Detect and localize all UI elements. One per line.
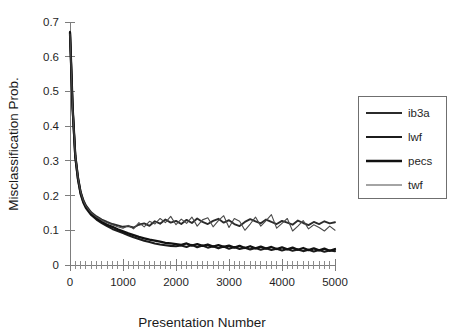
y-axis-tick-label: 0.5 — [43, 85, 59, 97]
y-axis-tick-label: 0.4 — [43, 120, 60, 132]
x-axis-tick-label: 4000 — [269, 276, 295, 288]
chart-legend: ib3alwfpecstwf — [358, 96, 446, 198]
y-axis-tick-label: 0.7 — [43, 16, 59, 28]
x-axis-tick-label: 3000 — [216, 276, 242, 288]
legend-label-lwf: lwf — [408, 131, 423, 143]
y-axis-tick-label: 0.2 — [43, 190, 59, 202]
x-axis-title: Presentation Number — [138, 315, 266, 330]
x-axis-tick-label: 0 — [67, 276, 73, 288]
legend-label-ib3a: ib3a — [408, 107, 430, 119]
x-axis-tick-label: 5000 — [322, 276, 348, 288]
legend-box — [358, 96, 446, 198]
y-axis-title: Misclassification Prob. — [6, 77, 21, 211]
legend-label-twf: twf — [408, 179, 424, 191]
misclassification-probability-chart: 01000200030004000500000.10.20.30.40.50.6… — [0, 0, 451, 336]
x-axis-tick-label: 1000 — [110, 276, 136, 288]
y-axis-tick-label: 0.3 — [43, 155, 59, 167]
y-axis-tick-label: 0.6 — [43, 51, 59, 63]
y-axis-tick-label: 0.1 — [43, 224, 59, 236]
x-axis-tick-label: 2000 — [163, 276, 189, 288]
y-axis-tick-label: 0 — [53, 259, 59, 271]
legend-label-pecs: pecs — [408, 155, 433, 167]
